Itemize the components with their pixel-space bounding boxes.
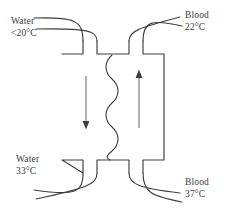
- tube-water-outlet-inner: [36, 173, 97, 199]
- label-blood-outlet-fluid: Blood: [185, 177, 209, 189]
- label-blood-inlet-temperature: 22°C: [185, 22, 209, 34]
- tube-water-inlet-inner: [36, 29, 97, 41]
- label-blood-inlet: Blood 22°C: [185, 10, 209, 33]
- heat-exchanger-diagram: Water <20°C Blood 22°C Water 33°C Blood …: [0, 0, 226, 215]
- tube-blood-inlet-inner: [129, 17, 180, 41]
- label-water-outlet-temperature: 33°C: [16, 166, 39, 178]
- flow-arrow-down-left: [83, 76, 90, 130]
- flow-arrow-up-right: [136, 70, 143, 129]
- label-water-outlet: Water 33°C: [16, 154, 39, 177]
- label-water-outlet-fluid: Water: [16, 154, 39, 166]
- exchanger-chamber-outline: [62, 41, 164, 173]
- tube-blood-outlet-inner: [129, 173, 180, 193]
- tube-blood-inlet-outer: [143, 22, 182, 41]
- label-water-inlet: Water <20°C: [11, 16, 37, 39]
- label-water-inlet-fluid: Water: [11, 16, 37, 28]
- label-blood-outlet-temperature: 37°C: [185, 189, 209, 201]
- tube-blood-outlet-outer: [143, 173, 182, 202]
- label-blood-inlet-fluid: Blood: [185, 10, 209, 22]
- label-blood-outlet: Blood 37°C: [185, 177, 209, 200]
- wavy-membrane-divider: [106, 55, 118, 160]
- label-water-inlet-temperature: <20°C: [11, 28, 37, 40]
